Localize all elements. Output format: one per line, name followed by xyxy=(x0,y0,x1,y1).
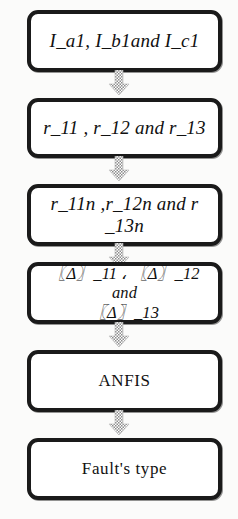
flow-node-fault-type: Fault's type xyxy=(27,438,222,500)
flow-node-currents-label: I_a1, I_b1and I_c1 xyxy=(45,30,205,52)
flow-node-anfis-label: ANFIS xyxy=(93,371,155,391)
flow-node-residuals-label: r_11 , r_12 and r_13 xyxy=(38,117,211,139)
flowchart: I_a1, I_b1and I_c1 r_11 , r_12 and r_13 … xyxy=(0,0,238,519)
arrow-down-icon-2 xyxy=(106,156,132,182)
arrow-down-icon-5 xyxy=(106,410,132,436)
arrow-down-icon-4 xyxy=(106,322,132,348)
flow-node-normalized-residuals-label: r_11n ,r_12n and r _13n xyxy=(46,193,204,238)
flow-node-deltas-label: 〖Δ〗_11 ، 〖Δ〗_12 and 〖Δ〗_13 xyxy=(31,264,218,322)
flow-node-fault-type-label: Fault's type xyxy=(77,459,172,479)
arrow-down-icon-1 xyxy=(106,70,132,96)
flow-node-deltas: 〖Δ〗_11 ، 〖Δ〗_12 and 〖Δ〗_13 xyxy=(27,262,222,324)
flow-node-residuals: r_11 , r_12 and r_13 xyxy=(27,98,222,158)
flow-node-normalized-residuals: r_11n ,r_12n and r _13n xyxy=(27,184,222,246)
flow-node-currents: I_a1, I_b1and I_c1 xyxy=(27,10,222,72)
flow-node-anfis: ANFIS xyxy=(27,350,222,412)
